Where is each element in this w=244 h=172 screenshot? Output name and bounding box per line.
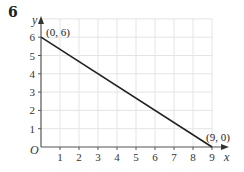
y-axis-label: y <box>31 13 38 27</box>
origin-label: O <box>30 143 39 157</box>
y-axis-arrow-icon <box>38 16 44 24</box>
y-tick-label: 6 <box>30 31 36 43</box>
x-tick-label: 1 <box>57 151 63 163</box>
point-label-x-intercept: (9, 0) <box>206 131 230 144</box>
y-tick-label: 5 <box>30 50 36 62</box>
x-tick-label: 2 <box>76 151 82 163</box>
x-tick-label: 3 <box>95 151 101 163</box>
y-tick-label: 1 <box>30 123 36 135</box>
x-tick-label: 9 <box>209 151 215 163</box>
y-tick-label: 2 <box>30 104 36 116</box>
x-axis-label: x <box>223 150 230 164</box>
y-tick-label: 4 <box>30 68 36 80</box>
x-tick-label: 8 <box>190 151 196 163</box>
x-tick-label: 5 <box>133 151 139 163</box>
line-chart: 123456789123456Oxy(0, 6)(9, 0) <box>0 0 244 172</box>
point-label-y-intercept: (0, 6) <box>46 26 70 39</box>
x-tick-label: 7 <box>171 151 177 163</box>
y-tick-label: 3 <box>30 86 36 98</box>
x-tick-label: 4 <box>114 151 120 163</box>
x-tick-label: 6 <box>152 151 158 163</box>
